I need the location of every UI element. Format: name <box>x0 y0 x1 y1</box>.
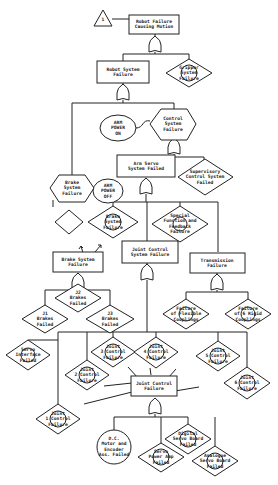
node-shapes <box>6 10 271 476</box>
j3-label: J3 Brakes Failed <box>102 311 119 327</box>
digital-servo-label: Digital Servo Board Failed <box>173 431 203 447</box>
servo-power-label: Servo Power Amp Failed <box>149 449 174 465</box>
joint5-label: Joint 5 Control Failure <box>206 348 231 364</box>
robot-system-label: Robot System Failure <box>106 67 139 78</box>
joint3-label: Joint 3 Control Failure <box>101 344 126 360</box>
transfer-label: 1 <box>102 17 105 22</box>
or-gate-icon <box>141 264 153 280</box>
joint6-label: Joint 6 Control Failure <box>235 375 260 391</box>
or-gate-icon <box>149 36 161 52</box>
or-gate-icon <box>211 274 223 290</box>
j1-label: J1 Brakes Failed <box>37 311 54 327</box>
blank-diamond <box>55 210 83 234</box>
dc-motor-label: D.C. Motor and Encoder Ass. Failed <box>99 436 129 458</box>
arm-servo-label: Arm Servo System Failed <box>128 161 164 172</box>
brake-hexagon-label: Brake System Failure <box>62 180 81 196</box>
transmission-label: Transmission Failure <box>200 258 233 269</box>
or-gate-icon <box>140 178 152 194</box>
brake-system-label: Brake System Failure <box>61 257 94 268</box>
j2-label: J2 Brakes Failed <box>70 290 87 306</box>
joint-control-system-label: Joint Control System Failure <box>131 247 170 258</box>
joint4-label: Joint 4 Control Failure <box>144 344 169 360</box>
joint2-label: Joint 2 Control Failure <box>75 367 100 383</box>
supervisory-label: Supervisory Control System Failed <box>186 169 225 185</box>
special-function-label: Special Function and Feedback Failure <box>163 213 196 235</box>
arm-power-off-label: ARM POWER OFF <box>101 183 115 199</box>
brake-diamond-label: Brake System Failure <box>103 214 122 230</box>
joint1-label: Joint 1 Control Failure <box>46 411 71 427</box>
rigid-coupling-label: Failure of 6 Rigid Couplings <box>234 306 262 322</box>
control-system-label: Control System Failure <box>163 116 182 132</box>
or-gate-icon <box>149 398 161 414</box>
top-event-label: Robot Failure Causing Motion <box>135 19 174 30</box>
joint-control-label: Joint Control Failure <box>136 381 172 392</box>
flexible-coupling-label: Failure of Flexible Couplings <box>171 306 201 322</box>
analogue-servo-label: Analogue Servo Board Failed <box>200 453 230 469</box>
gripper-label: Gripper System Failure <box>179 65 198 81</box>
or-gate-icon <box>117 84 129 100</box>
arm-power-on-label: ARM POWER ON <box>111 120 125 136</box>
servo-interface-label: Servo Interface Failed <box>16 347 41 363</box>
